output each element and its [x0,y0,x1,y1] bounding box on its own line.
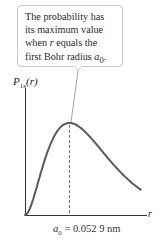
probability-curve [25,123,141,215]
leader-line [71,71,78,122]
bohr-radius-label: a0 = 0.052 9 nm [53,223,120,237]
x-axis-label: r [148,208,152,219]
y-label-arg: (r) [26,75,38,87]
a0-value: = 0.052 9 nm [62,223,121,234]
probability-chart [0,0,164,242]
y-label-main: P [13,75,20,87]
y-axis-label: P1s(r) [13,75,38,90]
